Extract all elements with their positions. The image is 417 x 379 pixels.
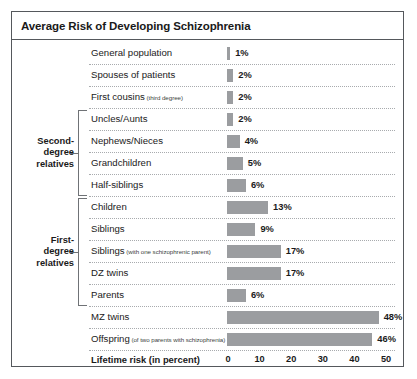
axis-tick-label: 0 [225, 354, 230, 364]
bar [227, 245, 281, 258]
bar-value-label: 48% [384, 312, 403, 322]
table-row: Offspring (of two parents with schizophr… [89, 329, 395, 351]
bar [227, 289, 246, 302]
table-row: Children13% [89, 197, 395, 219]
row-label: Half-siblings [91, 179, 143, 190]
bar [227, 91, 233, 104]
row-sublabel: (of two parents with schizophrenia) [130, 336, 226, 343]
table-row: DZ twins17% [89, 263, 395, 285]
row-label: Uncles/Aunts [91, 113, 148, 124]
chart-title-bar: Average Risk of Developing Schizophrenia [12, 12, 403, 40]
row-label: Parents [91, 289, 124, 300]
group-bracket [78, 110, 87, 196]
table-row: Grandchildren5% [89, 153, 395, 175]
row-label: Siblings (with one schizophrenic parent) [91, 245, 211, 256]
axis-title: Lifetime risk (in percent) [91, 354, 200, 365]
bar-value-label: 13% [273, 202, 292, 212]
group-label-line: relatives [12, 258, 74, 270]
axis-tick-label: 40 [349, 354, 359, 364]
table-row: MZ twins48% [89, 307, 395, 329]
axis-tick-label: 30 [318, 354, 328, 364]
bar-value-label: 6% [251, 180, 264, 190]
bar-value-label: 2% [238, 114, 251, 124]
chart-plot-area: General population1%Spouses of patients2… [12, 40, 403, 366]
bar-value-label: 46% [377, 334, 396, 344]
row-label: Nephews/Nieces [91, 135, 163, 146]
group-label-line: degree [12, 246, 74, 258]
bar [227, 223, 255, 236]
group-label: First-degreerelatives [12, 235, 74, 270]
row-label: Spouses of patients [91, 69, 175, 80]
group-label-line: First- [12, 235, 74, 247]
row-label: General population [91, 47, 172, 58]
bar [227, 157, 243, 170]
bar [227, 47, 230, 60]
group-label-line: degree [12, 147, 74, 159]
bar-value-label: 1% [235, 48, 248, 58]
bar [227, 267, 281, 280]
page-title: Average Risk of Developing Schizophrenia [21, 20, 250, 32]
table-row: Siblings9% [89, 219, 395, 241]
bar [227, 311, 379, 324]
table-row: Parents6% [89, 285, 395, 307]
axis-row: Lifetime risk (in percent)01020304050 [89, 351, 395, 371]
row-label: First cousins (third degree) [91, 91, 183, 102]
axis-tick-label: 20 [286, 354, 296, 364]
bar-value-label: 6% [251, 290, 264, 300]
row-label: Children [91, 201, 127, 212]
row-sublabel: (with one schizophrenic parent) [125, 248, 211, 255]
group-label-line: relatives [12, 159, 74, 171]
bar-value-label: 2% [238, 92, 251, 102]
bar [227, 333, 372, 346]
table-row: Uncles/Aunts2% [89, 109, 395, 131]
bar-value-label: 4% [245, 136, 258, 146]
bar-value-label: 2% [238, 70, 251, 80]
table-row: General population1% [89, 43, 395, 65]
bar [227, 69, 233, 82]
table-row: Half-siblings6% [89, 175, 395, 197]
bar-value-label: 5% [248, 158, 261, 168]
group-label-line: Second- [12, 136, 74, 148]
row-label: Siblings [91, 223, 125, 234]
bar [227, 113, 233, 126]
row-label: Offspring (of two parents with schizophr… [91, 333, 225, 344]
axis-tick-label: 10 [254, 354, 264, 364]
bar-value-label: 17% [286, 246, 305, 256]
row-label: Grandchildren [91, 157, 151, 168]
table-row: Siblings (with one schizophrenic parent)… [89, 241, 395, 263]
bar [227, 201, 268, 214]
chart-figure: Average Risk of Developing Schizophrenia… [11, 11, 404, 367]
bar-value-label: 17% [286, 268, 305, 278]
row-label: MZ twins [91, 311, 129, 322]
bar [227, 179, 246, 192]
group-label: Second-degreerelatives [12, 136, 74, 171]
group-bracket [78, 198, 87, 306]
table-row: Spouses of patients2% [89, 65, 395, 87]
table-row: First cousins (third degree)2% [89, 87, 395, 109]
row-label: DZ twins [91, 267, 128, 278]
axis-tick-label: 50 [381, 354, 391, 364]
table-row: Nephews/Nieces4% [89, 131, 395, 153]
bar [227, 135, 240, 148]
bar-value-label: 9% [260, 224, 273, 234]
row-sublabel: (third degree) [145, 94, 183, 101]
